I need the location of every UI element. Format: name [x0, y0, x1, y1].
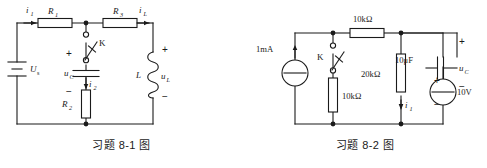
current-i1-sub: 1: [31, 10, 34, 17]
circuit-diagram-8-1: U s R 1 i 1 R 3: [0, 0, 243, 136]
switch-terminal-upper-right: [330, 43, 335, 48]
current-source-label: 1mA: [256, 44, 274, 54]
junction-node-top: [84, 21, 89, 26]
voltage-source-10v: + − 10V: [430, 75, 473, 110]
current-source-1ma: 1mA: [256, 44, 308, 86]
resistor-r2-sub: 2: [69, 104, 72, 111]
current-i2-label: i: [89, 79, 92, 89]
resistor-r3: R 3: [103, 6, 137, 28]
resistor-r3-sub: 3: [119, 11, 123, 18]
current-i2-sub: 2: [94, 84, 97, 91]
capacitor-uc-label: u: [64, 68, 69, 78]
junction-node-bottom: [84, 122, 89, 127]
current-i1-label-right: i: [405, 100, 408, 110]
circuit-diagram-8-2: 1mA K 10kΩ 10kΩ 2: [243, 0, 487, 136]
capacitor-uc-label-right: u: [459, 63, 464, 73]
resistor-r1-label: R: [47, 6, 54, 16]
current-il-label: i: [139, 5, 142, 15]
inductor-minus-sign: −: [162, 91, 168, 102]
source-minus-sign: −: [434, 99, 440, 110]
switch-k-label-right: K: [317, 52, 324, 62]
junction-node-bottom-mid-right: [399, 122, 404, 127]
figure-page: U s R 1 i 1 R 3: [0, 0, 487, 168]
source-label-sub: s: [37, 69, 40, 76]
capacitor-plus-sign-right: +: [459, 36, 465, 47]
junction-node-top-left-right: [331, 31, 336, 36]
voltage-source-10v-label: 10V: [457, 87, 473, 97]
capacitor-plus-sign: +: [66, 48, 72, 59]
switch-k[interactable]: K: [83, 32, 106, 63]
switch-terminal-upper: [83, 32, 88, 37]
resistor-r3-label: R: [112, 6, 119, 16]
inductor-l-label: L: [135, 70, 141, 80]
resistor-10k-switch-label: 10kΩ: [342, 91, 361, 101]
figure-8-1-caption: 习题 8-1 图: [0, 136, 243, 152]
resistor-10k-top: 10kΩ: [350, 14, 384, 38]
current-i1-sub-right: 1: [410, 105, 413, 112]
switch-k-label: K: [99, 38, 106, 48]
capacitor-10uf-label: 10μF: [395, 55, 413, 65]
junction-node-top-mid-right: [399, 31, 404, 36]
current-arrow-il: i L: [137, 5, 149, 25]
current-arrow-i1: i 1: [24, 5, 36, 25]
current-i1-label: i: [26, 5, 29, 15]
inductor-ul-label: u: [161, 71, 166, 81]
inductor-plus-sign: +: [162, 44, 168, 55]
current-arrow-i1-right: i 1: [399, 96, 413, 112]
capacitor-10uf: 10μF u C + −: [395, 36, 470, 92]
junction-node-bottom-left-right: [331, 122, 336, 127]
resistor-r1-sub: 1: [55, 11, 58, 18]
source-plus-sign: +: [434, 75, 440, 86]
switch-k-right[interactable]: K: [317, 43, 344, 73]
resistor-10k-switch-branch: 10kΩ: [329, 78, 362, 112]
figure-8-2: 1mA K 10kΩ 10kΩ 2: [243, 0, 487, 168]
inductor-ul-sub: L: [166, 76, 171, 83]
capacitor-minus-sign: −: [66, 86, 72, 97]
resistor-10k-top-label: 10kΩ: [353, 14, 372, 24]
source-label: U: [30, 64, 37, 74]
resistor-20k-label: 20kΩ: [361, 69, 380, 79]
voltage-source-us: U s: [8, 62, 40, 76]
capacitor-uc-sub-right: C: [465, 68, 470, 75]
figure-8-2-caption: 习题 8-2 图: [243, 136, 487, 152]
resistor-r2-label: R: [61, 99, 68, 109]
inductor-l: L + − u L: [135, 44, 171, 102]
resistor-r1: R 1: [38, 6, 72, 28]
figure-8-1: U s R 1 i 1 R 3: [0, 0, 243, 168]
current-il-sub: L: [143, 10, 148, 17]
